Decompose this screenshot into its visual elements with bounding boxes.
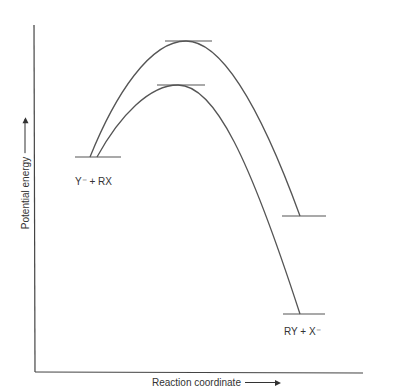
arrow-right-icon (245, 382, 279, 383)
reactants-label: Y⁻ + RX (75, 176, 112, 187)
y-axis-label-text: Potential energy (20, 157, 31, 229)
arrow-up-icon (25, 119, 26, 153)
x-axis (35, 372, 363, 373)
x-axis-label: Reaction coordinate (152, 377, 279, 388)
energy-diagram (0, 0, 393, 392)
lower-reaction-curve (97, 85, 300, 314)
products-label: RY + X⁻ (284, 326, 321, 337)
upper-reaction-curve (90, 41, 300, 216)
x-axis-label-text: Reaction coordinate (152, 377, 241, 388)
y-axis-label: Potential energy (20, 119, 31, 229)
y-axis (34, 25, 35, 372)
